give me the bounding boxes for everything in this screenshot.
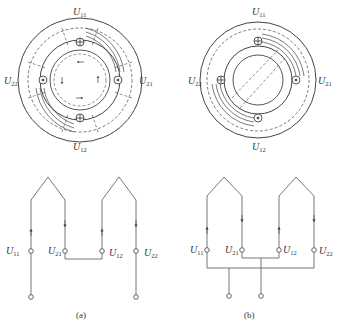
terminal-a-out2 xyxy=(134,295,139,300)
conductor-out-icon xyxy=(254,114,262,122)
conductor-into-icon xyxy=(76,38,84,46)
label-a-u22: U22 xyxy=(144,247,158,259)
terminal-a-u11 xyxy=(29,249,34,254)
panel-b-circuit xyxy=(205,177,317,298)
terminal-b-out1 xyxy=(227,294,232,299)
label-a-left: U22 xyxy=(4,75,18,87)
conductor-out-icon xyxy=(39,76,47,84)
label-b-right: U21 xyxy=(318,75,332,87)
conductor-out-icon xyxy=(114,76,122,84)
conductor-into-icon xyxy=(254,37,262,45)
label-a-u12: U12 xyxy=(109,247,123,259)
label-b-u21: U21 xyxy=(225,244,239,256)
terminal-b-u22 xyxy=(312,248,317,253)
conductor-out-icon xyxy=(292,76,300,84)
terminal-b-out2 xyxy=(259,294,264,299)
label-b-u12: U12 xyxy=(283,244,297,256)
panel-a-circuit xyxy=(29,177,139,299)
caption-a: (a) xyxy=(76,310,86,320)
label-b-bottom: U12 xyxy=(252,141,266,153)
label-a-u21: U21 xyxy=(48,245,62,257)
panel-b-machine xyxy=(200,22,316,138)
label-a-top: U11 xyxy=(73,6,87,18)
conductor-into-icon xyxy=(76,114,84,122)
label-b-u11: U11 xyxy=(190,244,204,256)
panel-a-machine xyxy=(18,18,142,142)
label-b-u22: U22 xyxy=(319,245,333,257)
caption-b: (b) xyxy=(244,310,255,320)
label-a-bottom: U12 xyxy=(73,141,87,153)
label-a-right: U21 xyxy=(139,75,153,87)
conductor-into-icon xyxy=(217,76,225,84)
terminal-a-out1 xyxy=(29,295,34,300)
terminal-b-u12 xyxy=(277,248,282,253)
winding-diagram: U11 U21 U12 U22 xyxy=(0,0,342,325)
terminal-b-u11 xyxy=(205,248,210,253)
terminal-a-u21 xyxy=(63,249,68,254)
label-a-u11: U11 xyxy=(6,245,20,257)
terminal-a-u22 xyxy=(134,249,139,254)
terminal-b-u21 xyxy=(240,248,245,253)
terminal-a-u12 xyxy=(100,249,105,254)
label-b-top: U11 xyxy=(252,6,266,18)
